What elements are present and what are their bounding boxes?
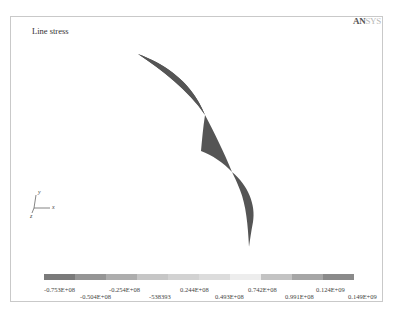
legend-swatch-7 — [230, 274, 261, 280]
legend-swatch-10 — [323, 274, 354, 280]
legend-swatch-4 — [137, 274, 168, 280]
color-legend-bar — [44, 274, 354, 280]
legend-swatch-1 — [44, 274, 75, 280]
legend-swatch-5 — [168, 274, 199, 280]
legend-label: 0.991E+08 — [285, 293, 314, 300]
legend-swatch-6 — [199, 274, 230, 280]
legend-label: -0.504E+08 — [80, 293, 111, 300]
legend-label: 0.149E+09 — [348, 293, 377, 300]
legend-label: 0.244E+08 — [180, 286, 209, 293]
legend-swatch-9 — [292, 274, 323, 280]
legend-label: -0.254E+08 — [109, 286, 140, 293]
legend-swatch-8 — [261, 274, 292, 280]
legend-label: 0.742E+08 — [248, 286, 277, 293]
legend-label: 0.124E+09 — [316, 286, 345, 293]
coordinate-triad — [0, 0, 396, 316]
legend-swatch-2 — [75, 274, 106, 280]
legend-label: -0.753E+08 — [44, 286, 75, 293]
triad-z-label: z — [30, 213, 32, 219]
legend-label: -538393 — [149, 293, 171, 300]
legend-label: 0.493E+08 — [215, 293, 244, 300]
triad-y-label: y — [38, 189, 41, 195]
triad-x-label: x — [52, 204, 55, 210]
legend-swatch-3 — [106, 274, 137, 280]
